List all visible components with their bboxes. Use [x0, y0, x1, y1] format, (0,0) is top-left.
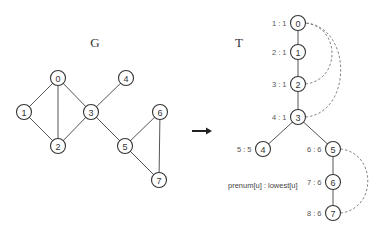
node-label: 0 [55, 74, 60, 84]
prenum-lowest-label: 7 : 6 [307, 178, 322, 187]
t-node-1: 1 [291, 45, 306, 60]
node-label: 5 [122, 142, 127, 152]
node-label: 1 [21, 108, 26, 118]
node-label: 3 [295, 113, 300, 123]
t-node-4: 4 [256, 142, 271, 157]
g-node-5: 5 [118, 139, 133, 154]
prenum-lowest-label: 3 : 1 [272, 80, 287, 89]
node-label: 0 [295, 19, 300, 29]
back-edge-2-0 [306, 23, 333, 84]
g-node-0: 0 [51, 71, 66, 86]
tree-t-title: T [235, 35, 243, 50]
node-label: 7 [156, 176, 161, 186]
prenum-lowest-label: 8 : 6 [307, 209, 322, 218]
t-node-7: 7 [326, 206, 341, 221]
t-node-5: 5 [326, 142, 341, 157]
prenum-lowest-label: 2 : 1 [272, 48, 287, 57]
node-label: 3 [88, 108, 93, 118]
graph-g-nodes: 01234567 [17, 71, 168, 188]
graph-g-edges [24, 78, 160, 180]
node-label: 4 [260, 145, 265, 155]
prenum-lowest-label: 4 : 1 [272, 113, 287, 122]
node-label: 2 [295, 80, 300, 90]
edge-6-7 [159, 112, 160, 180]
dfs-diagram: G T 01234567 01 : 112 : 123 : 134 : 145 … [0, 0, 379, 235]
t-node-2: 2 [291, 77, 306, 92]
node-label: 6 [330, 178, 335, 188]
g-node-2: 2 [51, 139, 66, 154]
prenum-lowest-label: 5 : 5 [237, 145, 252, 154]
transform-arrow-icon [192, 128, 212, 135]
graph-g-title: G [90, 35, 99, 50]
back-edge-3-0 [306, 23, 341, 117]
prenum-lowest-label: 1 : 1 [272, 19, 287, 28]
node-label: 6 [157, 108, 162, 118]
node-label: 4 [123, 74, 128, 84]
prenum-lowest-label: 6 : 6 [307, 145, 322, 154]
node-label: 1 [295, 48, 300, 58]
t-node-3: 3 [291, 110, 306, 125]
legend-label: prenum[u] : lowest[u] [228, 181, 298, 190]
t-node-6: 6 [326, 175, 341, 190]
g-node-7: 7 [152, 173, 167, 188]
node-label: 2 [55, 142, 60, 152]
g-node-6: 6 [153, 105, 168, 120]
t-node-0: 0 [291, 16, 306, 31]
g-node-3: 3 [84, 105, 99, 120]
back-edge-7-5 [341, 149, 368, 213]
node-label: 5 [330, 145, 335, 155]
g-node-4: 4 [119, 71, 134, 86]
node-label: 7 [330, 209, 335, 219]
diagram-svg: G T 01234567 01 : 112 : 123 : 134 : 145 … [0, 0, 379, 235]
g-node-1: 1 [17, 105, 32, 120]
